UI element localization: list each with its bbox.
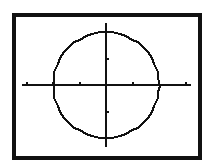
axes [22, 23, 191, 147]
calculator-screen [0, 0, 216, 166]
